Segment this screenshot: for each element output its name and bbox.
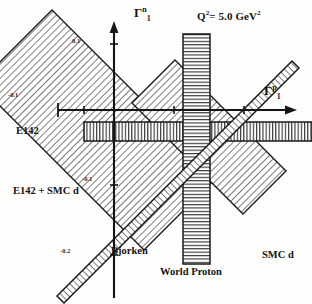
physics-constraint-plot: Q2= 5.0 GeV2 Γn1 Γp1 -0.1 0.1 -0.1 -0.2 … (0, 0, 312, 304)
plot-title: Q2= 5.0 GeV2 (197, 10, 261, 22)
y-axis-subscript: 1 (147, 14, 151, 23)
band-label-e142-smc-d: E142 + SMC d (13, 186, 79, 197)
y-axis-tick-label-low: -0.2 (60, 248, 70, 255)
x-axis-superscript: p (272, 83, 276, 92)
y-axis-superscript: n (142, 5, 146, 14)
band-label-world-proton: World Proton (160, 267, 222, 278)
y-axis-tick-label-mid: -0.1 (82, 176, 92, 183)
y-axis-label: Γn1 (134, 6, 151, 23)
band-label-smc-d: SMC d (262, 250, 294, 261)
title-exponent-gev: 2 (257, 9, 261, 17)
y-axis-tick-label-top: 0.1 (72, 38, 80, 45)
x-axis-label: Γp1 (264, 84, 281, 101)
band-label-bjorken: Bjorken (111, 246, 148, 257)
x-axis-tick-label-neg: -0.1 (8, 92, 18, 99)
x-axis-subscript: 1 (277, 92, 281, 101)
band-label-e142: E142 (16, 126, 39, 137)
